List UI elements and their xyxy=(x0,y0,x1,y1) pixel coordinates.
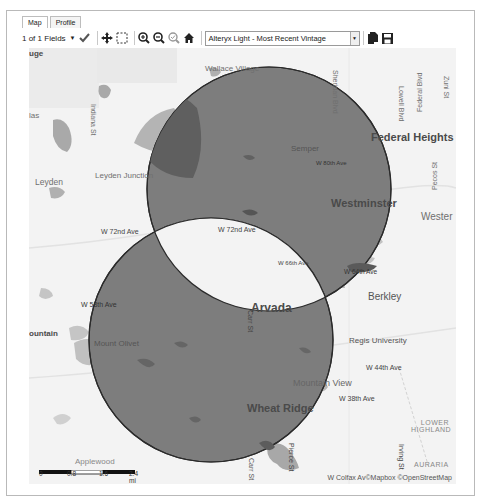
tab-profile[interactable]: Profile xyxy=(50,16,82,28)
select-rectangle-icon[interactable] xyxy=(116,32,128,44)
map-attribution: W Colfax Av©Mapbox ©OpenStreetMap xyxy=(327,474,452,481)
label-street: W 64th Ave xyxy=(344,269,377,276)
label-place: Leyden Junction xyxy=(95,172,153,180)
scale-tick: 0.8 xyxy=(67,470,76,477)
label-street: W 66th Ave xyxy=(278,260,309,266)
toolbar-divider xyxy=(97,31,98,45)
label-street: Irving St xyxy=(398,444,405,470)
scale-tick: 1.6 xyxy=(99,470,108,477)
label-neighborhood: LOWER HIGHLAND xyxy=(411,419,449,433)
label-street: Pecos St xyxy=(431,162,438,190)
map-canvas[interactable]: uge las Indiana St Wallace Village Sheri… xyxy=(29,48,456,484)
toolbar-divider xyxy=(201,31,202,45)
tab-map[interactable]: Map xyxy=(22,16,48,28)
copy-icon[interactable] xyxy=(367,32,379,44)
map-toolbar: 1 of 1 Fields ▼ Alteryx Light - Most Rec… xyxy=(22,29,464,47)
label-neighborhood: AURARIA xyxy=(414,461,449,468)
fields-label: 1 of 1 Fields xyxy=(22,34,66,43)
label-street: W 80th Ave xyxy=(316,160,347,166)
checkmark-icon[interactable] xyxy=(79,32,91,44)
zoom-in-icon[interactable] xyxy=(138,32,150,44)
zoom-selection-icon[interactable] xyxy=(168,32,180,44)
label-city: Wester xyxy=(421,212,453,222)
pan-icon[interactable] xyxy=(101,32,113,44)
label-street: Pierce St xyxy=(288,443,295,471)
basemap-select[interactable]: Alteryx Light - Most Recent Vintage ▼ xyxy=(205,31,360,46)
basemap-value: Alteryx Light - Most Recent Vintage xyxy=(209,34,326,43)
label-place: Mountain View xyxy=(293,379,352,388)
label-place: Leyden xyxy=(35,178,63,187)
label-city: Wheat Ridge xyxy=(247,403,314,414)
toolbar-divider xyxy=(363,31,364,45)
scale-tick: 0 xyxy=(39,470,43,477)
fields-selector[interactable]: 1 of 1 Fields ▼ xyxy=(22,30,76,46)
chevron-down-icon[interactable]: ▼ xyxy=(350,32,359,45)
label-street: W 72nd Ave xyxy=(218,226,256,233)
label-street: Lowell Blvd xyxy=(398,86,405,121)
label-place: uge xyxy=(29,50,43,58)
label-street: Carr St xyxy=(247,310,254,332)
label-city: Berkley xyxy=(368,292,401,302)
label-city: Westminster xyxy=(331,198,397,209)
label-place: las xyxy=(29,112,39,120)
view-tabs: Map Profile xyxy=(22,16,83,28)
label-street: Zuni St xyxy=(443,76,450,98)
label-street: W Colfax Av xyxy=(327,474,365,481)
label-place: Wallace Village xyxy=(205,65,259,73)
label-place: Semper xyxy=(291,145,319,153)
label-street: W 58th Ave xyxy=(81,301,117,308)
label-street: Carr St xyxy=(248,458,255,480)
zoom-out-icon[interactable] xyxy=(153,32,165,44)
label-place: Regis University xyxy=(349,337,407,345)
attribution-text[interactable]: ©Mapbox ©OpenStreetMap xyxy=(365,474,452,481)
label-street: W 72nd Ave xyxy=(101,228,139,235)
label-street: W 38th Ave xyxy=(339,395,375,402)
toolbar-divider xyxy=(134,31,135,45)
scale-tick: 2.4 mi xyxy=(129,470,138,484)
dropdown-icon[interactable]: ▼ xyxy=(70,35,76,41)
label-street: Sheridan Blvd xyxy=(332,70,339,114)
label-street: Federal Blvd xyxy=(416,73,423,112)
label-city: Arvada xyxy=(251,302,292,314)
save-icon[interactable] xyxy=(382,32,394,44)
label-street: Indiana St xyxy=(90,104,97,136)
label-city: Federal Heights xyxy=(371,132,454,143)
label-place: ountain xyxy=(29,330,58,338)
home-icon[interactable] xyxy=(183,32,195,44)
label-place: Mount Olivet xyxy=(94,340,139,348)
label-place: Applewood xyxy=(75,458,115,466)
label-street: W 44th Ave xyxy=(366,364,402,371)
